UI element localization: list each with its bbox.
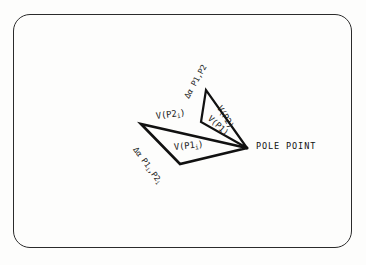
label-v-p2-i-paren: ) (179, 107, 185, 118)
vector-diagram (0, 0, 366, 265)
pole-point-label: POLE POINT (256, 142, 316, 151)
label-v-p2-i-text: V(P2 (155, 109, 177, 121)
figure-page: POLE POINT V(P2i) V(P1i) V(P2) V(P1) Δα … (0, 0, 366, 265)
label-v-p1-i-text: V(P1 (173, 140, 195, 152)
label-v-p1-i-paren: ) (197, 139, 203, 149)
pole-point-marker (245, 146, 248, 149)
